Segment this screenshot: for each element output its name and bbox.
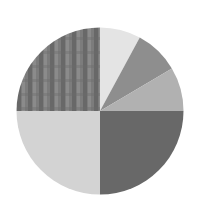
pie-slice-6 (17, 28, 101, 112)
pie-slice-5 (17, 111, 101, 195)
pie-slices (17, 28, 184, 195)
pie-chart (0, 0, 203, 207)
pie-slice-4 (100, 111, 184, 195)
pie-chart-svg (0, 0, 203, 207)
